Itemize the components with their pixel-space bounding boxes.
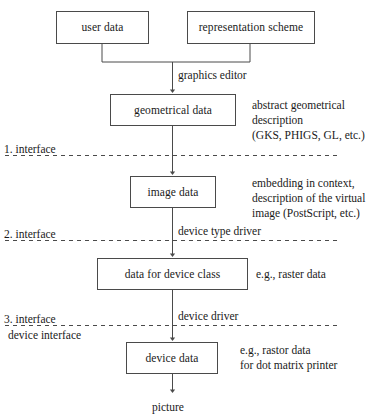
- edge-label-graphics-editor: graphics editor: [178, 68, 247, 82]
- edge-label-device-driver: device driver: [178, 309, 238, 323]
- interface-sublabel-device-interface: device interface: [8, 328, 81, 342]
- graphics-pipeline-diagram: user data representation scheme geometri…: [0, 0, 389, 420]
- node-user-data[interactable]: user data: [56, 11, 149, 44]
- node-representation-scheme-label: representation scheme: [199, 21, 304, 34]
- interface-label-3: 3. interface: [4, 312, 56, 326]
- interface-label-1: 1. interface: [4, 142, 56, 156]
- annotation-device-class: e.g., raster data: [256, 267, 326, 282]
- annotation-device-data: e.g., rastor data for dot matrix printer: [240, 343, 337, 373]
- node-image-data-label: image data: [147, 186, 198, 199]
- node-data-for-device-class[interactable]: data for device class: [97, 258, 248, 290]
- terminal-label-picture: picture: [152, 401, 184, 413]
- node-geometrical-data[interactable]: geometrical data: [110, 94, 236, 126]
- node-device-data[interactable]: device data: [126, 342, 218, 374]
- node-image-data[interactable]: image data: [130, 176, 216, 208]
- interface-label-2: 2. interface: [4, 227, 56, 241]
- node-representation-scheme[interactable]: representation scheme: [187, 11, 315, 44]
- annotation-image-data: embedding in context, description of the…: [252, 176, 365, 221]
- annotation-geometrical-data: abstract geometrical description (GKS, P…: [252, 98, 365, 143]
- node-geometrical-data-label: geometrical data: [134, 104, 212, 117]
- edge-label-device-type-driver: device type driver: [178, 224, 261, 238]
- node-data-for-device-class-label: data for device class: [125, 268, 221, 281]
- node-user-data-label: user data: [81, 21, 123, 34]
- node-device-data-label: device data: [145, 352, 198, 365]
